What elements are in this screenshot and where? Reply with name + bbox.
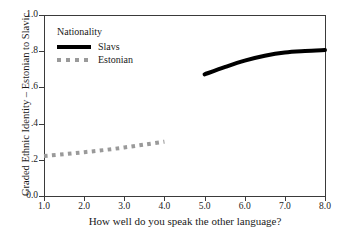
legend-entry-estonian: Estonian <box>57 53 133 66</box>
x-tick-label: 8.0 <box>310 202 339 212</box>
x-axis-title: How well do you speak the other language… <box>44 215 326 227</box>
y-tick-label: .6 <box>31 82 38 92</box>
y-tick-label: .8 <box>31 46 38 56</box>
y-axis-title: Graded Ethnic Identity – Estonian to Sla… <box>20 0 31 215</box>
legend-label-estonian: Estonian <box>98 54 133 65</box>
x-tick-label: 4.0 <box>149 202 179 212</box>
y-tick-mark <box>39 87 44 88</box>
x-axis-spine <box>44 196 326 197</box>
y-axis-spine <box>44 15 45 197</box>
y-tick-label: .4 <box>31 119 38 129</box>
y-tick-mark <box>39 124 44 125</box>
series-line-estonian <box>44 142 164 156</box>
x-tick-label: 2.0 <box>69 202 99 212</box>
x-tick-label: 3.0 <box>109 202 139 212</box>
legend-label-slavs: Slavs <box>98 41 120 52</box>
x-tick-label: 7.0 <box>270 202 300 212</box>
legend-entry-slavs: Slavs <box>57 40 133 53</box>
series-line-slavs <box>205 50 325 74</box>
y-tick-label: .2 <box>31 155 38 165</box>
solid-line-swatch <box>57 41 91 52</box>
y-tick-mark <box>39 51 44 52</box>
chart-figure: 0.0.2.4.6.81.0 1.02.03.04.05.06.07.08.0 … <box>0 0 339 237</box>
right-spine <box>325 15 326 197</box>
x-tick-label: 6.0 <box>230 202 260 212</box>
legend-title: Nationality <box>57 26 133 37</box>
x-tick-label: 5.0 <box>190 202 220 212</box>
legend: Nationality Slavs Estonian <box>57 26 133 66</box>
y-tick-mark <box>39 160 44 161</box>
x-tick-label: 1.0 <box>29 202 59 212</box>
dotted-line-swatch <box>57 54 91 65</box>
y-tick-mark <box>39 15 44 16</box>
top-spine <box>44 15 326 16</box>
